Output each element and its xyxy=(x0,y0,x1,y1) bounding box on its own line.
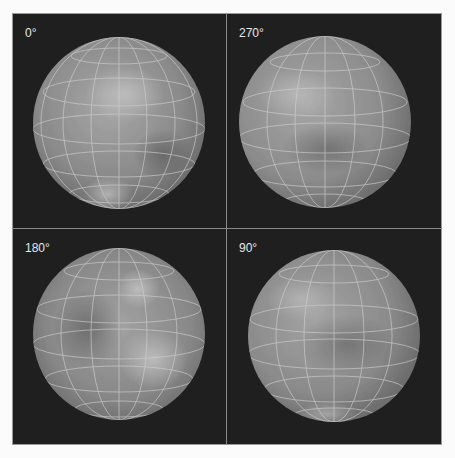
sphere-180 xyxy=(13,229,227,443)
panel-label: 270° xyxy=(239,26,264,40)
panel-label: 0° xyxy=(25,26,36,40)
panel-90-degrees: 90° xyxy=(227,229,441,443)
panel-180-degrees: 180° xyxy=(13,229,227,443)
panel-270-degrees: 270° xyxy=(227,14,441,228)
sphere-90 xyxy=(227,229,441,443)
sphere-270 xyxy=(227,14,441,228)
panel-label: 180° xyxy=(25,241,50,255)
sphere-0 xyxy=(13,14,227,228)
panel-0-degrees: 0° xyxy=(13,14,227,228)
panel-label: 90° xyxy=(239,241,257,255)
